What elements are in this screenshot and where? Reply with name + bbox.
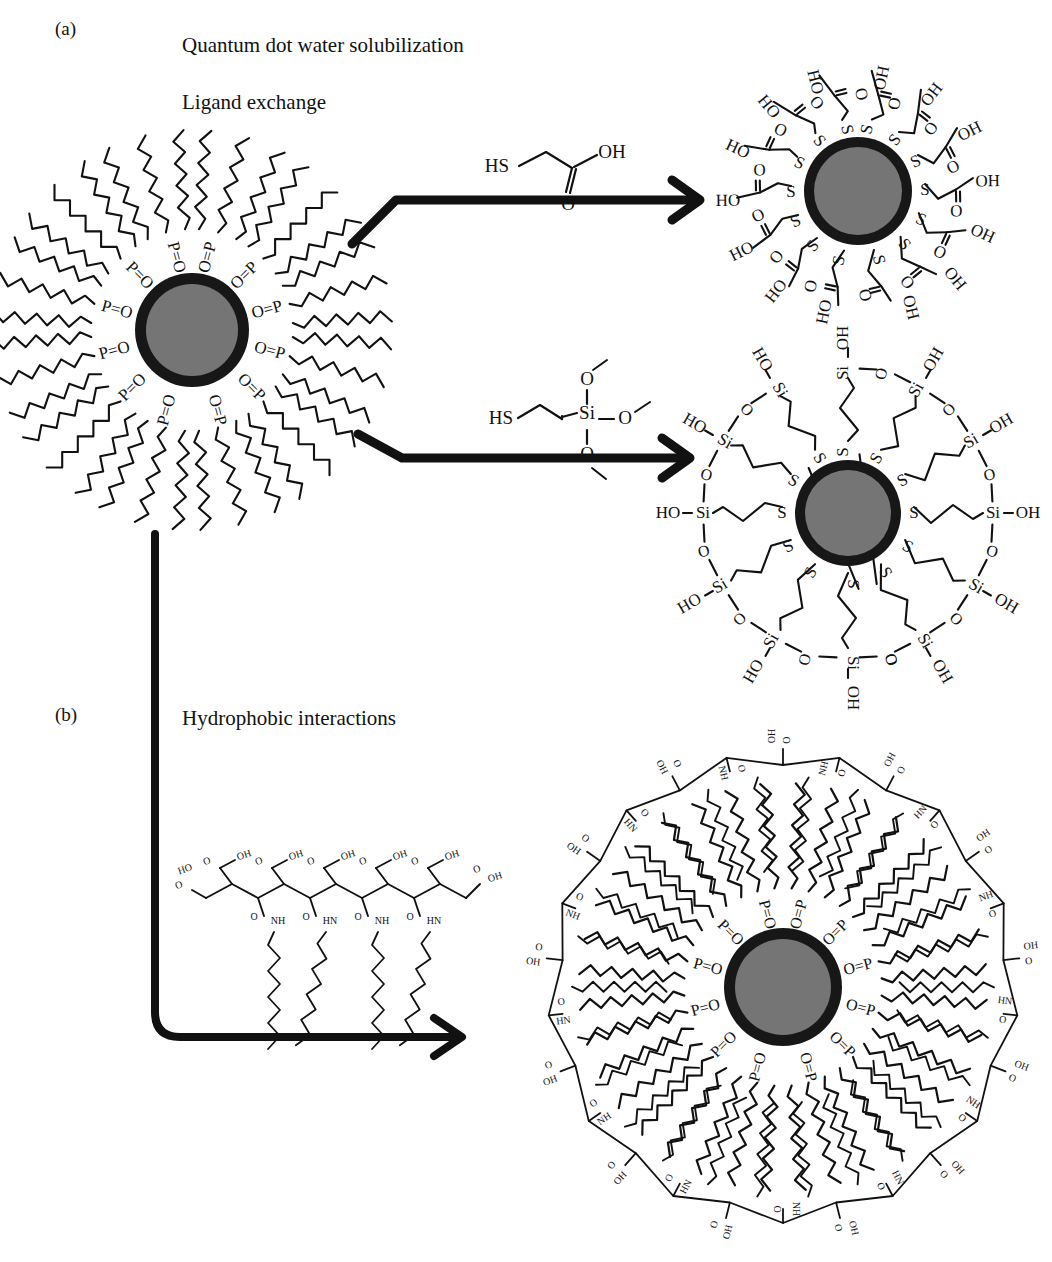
- alkyl-chain: [10, 374, 101, 418]
- atom-label-oh: OH: [847, 1220, 861, 1237]
- bond-cooh: [672, 776, 679, 790]
- atom-label-nh: NH: [595, 1110, 613, 1127]
- alkyl-chain: [135, 428, 166, 522]
- alkyl-chain: [15, 237, 102, 285]
- bridge-label-o: O: [946, 609, 966, 629]
- atom-label-o: O: [535, 941, 544, 953]
- atom-label-nh: NH: [816, 760, 830, 777]
- bridge-label-o: O: [882, 652, 901, 668]
- shell-label-si: Si: [833, 366, 852, 380]
- bond-si-oh: [983, 431, 991, 436]
- alkyl-chain: [0, 273, 94, 304]
- atom-label-o: O: [671, 758, 684, 770]
- atom-label-o: O: [250, 911, 257, 922]
- ligand-label-s: S: [800, 564, 821, 582]
- bond-terminal: [192, 890, 206, 898]
- alkyl-chain: [596, 889, 677, 937]
- bond-oh: [947, 230, 966, 232]
- alkyl-chain: [725, 791, 759, 891]
- bridge-label-o: O: [696, 541, 712, 560]
- bond-si-o: [930, 394, 945, 403]
- bond-oh: [324, 860, 339, 868]
- shell-label-si: Si: [709, 574, 731, 598]
- alkyl-chain: [138, 135, 169, 232]
- atom-label-o: O: [938, 1168, 951, 1181]
- alkyl-chain: [596, 1041, 682, 1084]
- bond-si-oh: [983, 591, 991, 596]
- bond-o-si: [992, 484, 993, 501]
- atom-label-o: O: [354, 911, 361, 922]
- alkyl-chain: [293, 311, 392, 327]
- atom-label-o: O: [580, 831, 592, 844]
- bond-cooh: [220, 868, 232, 884]
- bond-amide: [362, 898, 368, 916]
- atom-label-oh: OH: [598, 141, 626, 162]
- bond-oh: [881, 286, 891, 301]
- bond-cooh: [930, 1153, 941, 1165]
- bridge-label-o: O: [699, 465, 715, 484]
- bond-co-b: [766, 137, 770, 146]
- alkyl-chain: [882, 964, 986, 982]
- ligand-label-po: P=O: [715, 916, 748, 949]
- ligand-label-po: P=O: [122, 257, 158, 293]
- atom-label-oh: OH: [339, 847, 356, 862]
- bond-o-si: [786, 644, 801, 652]
- ligand-label-po: P=O: [745, 1050, 769, 1083]
- ligand-exchange-heading: Ligand exchange: [182, 90, 326, 115]
- bond-o-si: [979, 560, 987, 575]
- shell-label-oh: HO: [739, 656, 768, 687]
- bond-co-b: [950, 147, 955, 156]
- atom-label-o: O: [543, 1058, 554, 1071]
- atom-label-o: O: [587, 1096, 599, 1109]
- shell-label-oh: HO: [679, 409, 710, 438]
- bond-ch2: [796, 115, 816, 133]
- atom-label-o: O: [928, 818, 941, 831]
- bond-cooh: [625, 1153, 636, 1165]
- alkyl-chain: [76, 414, 136, 493]
- bond-terminal: [466, 884, 480, 898]
- qd-core: [814, 147, 902, 235]
- bond-propyl: [713, 503, 782, 521]
- shell-label-oh: OH: [991, 589, 1022, 618]
- bond-propyl: [840, 378, 858, 441]
- ligand-label-po: O=P: [205, 392, 231, 427]
- alkyl-chain: [290, 356, 384, 387]
- ligand-label-po: O=P: [819, 916, 852, 949]
- bond-propyl: [914, 505, 983, 523]
- atom-label-nh: NH: [271, 915, 285, 926]
- alkyl-chain: [276, 387, 355, 447]
- atom-label-nh: NH: [791, 1202, 802, 1216]
- atom-label-o: O: [639, 806, 652, 819]
- atom-label-o: O: [771, 119, 790, 141]
- bond-o-si: [958, 416, 967, 431]
- atom-label-o: O: [1007, 1071, 1018, 1084]
- atom-label-oh: OH: [287, 847, 304, 862]
- atom-label-oh: OH: [949, 1158, 967, 1176]
- bond-propyl: [881, 396, 916, 450]
- bond-si-oh: [705, 431, 713, 436]
- bridge-label-o: O: [729, 609, 749, 629]
- alkyl-chain: [236, 153, 284, 240]
- ligand-label-s: S: [856, 123, 877, 136]
- atom-label-oh: HO: [716, 191, 741, 210]
- atom-label-nh: HN: [997, 994, 1013, 1007]
- atom-label-nh: NH: [375, 915, 389, 926]
- bond-oh: [920, 267, 936, 274]
- bond-si-o: [992, 525, 993, 542]
- bond-amide: [414, 898, 420, 916]
- atom-label-o: O: [707, 1219, 719, 1229]
- alkyl-chain: [879, 929, 979, 963]
- bond-cooh: [966, 852, 979, 861]
- ligand-label-po: P=O: [164, 240, 190, 275]
- alkyl-chain: [263, 193, 337, 259]
- bond-propyl: [781, 396, 816, 450]
- hydrophobic-interactions-heading: Hydrophobic interactions: [182, 706, 396, 731]
- atom-label-oh: HO: [761, 275, 791, 306]
- bond-amide: [258, 898, 264, 916]
- atom-label-nh: HN: [427, 915, 441, 926]
- topo-capped-quantum-dot: O=PO=PO=PO=PO=PO=PP=OP=OP=OP=OP=OP=O: [0, 130, 392, 530]
- bond-o-si: [751, 394, 766, 403]
- ligand-label-po: P=O: [153, 392, 179, 427]
- bond-propyl: [905, 446, 965, 481]
- bond-cooh: [324, 868, 336, 884]
